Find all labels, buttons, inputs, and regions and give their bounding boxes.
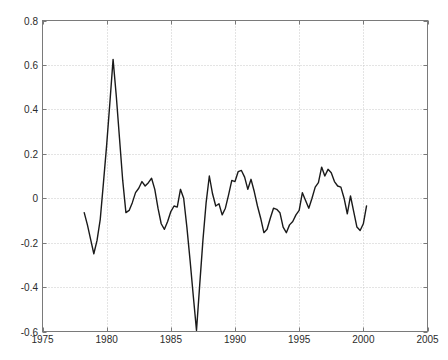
y-tick-label: 0.2 [4,148,38,159]
plot-area [0,0,448,360]
y-tick-label: 0 [4,193,38,204]
data-line-series-1 [84,59,366,330]
x-tick-label: 1980 [96,334,118,345]
x-tick-label: 2005 [416,334,438,345]
chart-figure: 0.80.60.40.20-0.2-0.4-0.6 19751980198519… [0,0,448,360]
x-axis-tick-labels: 1975198019851990199520002005 [0,334,448,354]
y-tick-label: 0.4 [4,104,38,115]
x-tick-label: 1995 [288,334,310,345]
x-tick-label: 1985 [160,334,182,345]
y-axis-tick-labels: 0.80.60.40.20-0.2-0.4-0.6 [0,0,38,360]
x-tick-label: 1975 [31,334,53,345]
y-tick-label: 0.6 [4,59,38,70]
y-tick-label: 0.8 [4,15,38,26]
y-tick-label: -0.4 [4,282,38,293]
grid-lines [43,21,428,332]
y-tick-label: -0.2 [4,237,38,248]
x-tick-label: 2000 [352,334,374,345]
x-tick-label: 1990 [224,334,246,345]
